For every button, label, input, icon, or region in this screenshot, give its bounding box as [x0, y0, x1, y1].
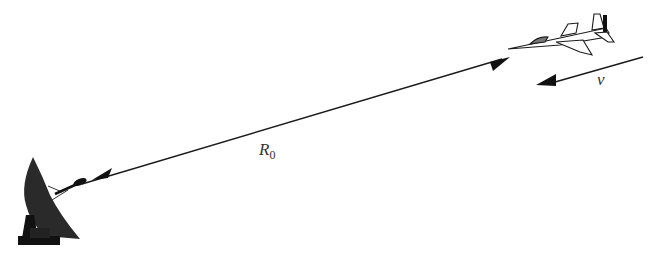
radar-diagram: R0 v	[0, 0, 661, 263]
velocity-label: v	[597, 70, 605, 90]
range-subscript: 0	[269, 148, 275, 162]
range-arrowhead-radar	[92, 168, 112, 180]
velocity-arrow	[536, 57, 643, 86]
range-line	[82, 57, 510, 184]
range-symbol: R	[259, 140, 269, 159]
radar-dish-icon	[18, 157, 88, 245]
range-label: R0	[259, 140, 275, 163]
velocity-arrowhead	[536, 74, 556, 86]
aircraft-icon	[508, 14, 614, 55]
